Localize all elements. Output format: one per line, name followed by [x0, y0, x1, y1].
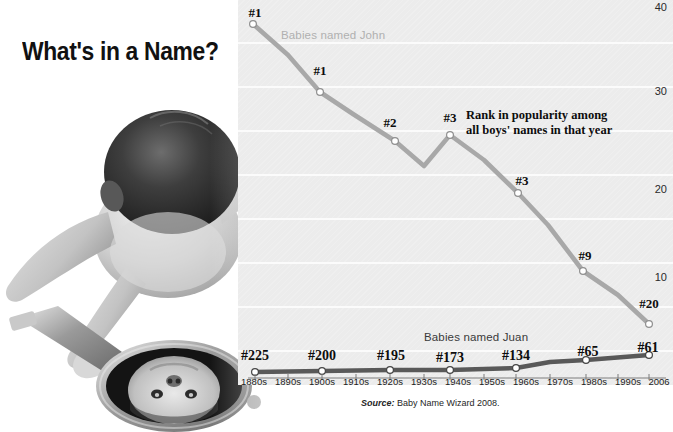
y-tick-label: 20	[643, 183, 667, 195]
data-label-juan: #134	[502, 348, 530, 364]
y-tick-label: 30	[643, 85, 667, 97]
chart-annotation: Rank in popularity among all boys' names…	[466, 108, 612, 138]
x-tick-label: 1900s	[309, 376, 335, 387]
x-axis-labels: 1880s 1890s 1900s 1910s 1920s 1930s 1940…	[238, 376, 673, 394]
source-label: Source:	[361, 398, 395, 408]
series-label-juan: Babies named Juan	[424, 331, 528, 343]
x-tick-label: 1940s	[445, 376, 471, 387]
x-tick-label: 1880s	[241, 376, 267, 387]
annotation-line-2: all boys' names in that year	[466, 123, 612, 138]
x-tick-label: 1980s	[581, 376, 607, 387]
data-label-juan: #61	[638, 340, 659, 356]
x-tick-label: 1950s	[479, 376, 505, 387]
x-tick-label: 1990s	[615, 376, 641, 387]
data-label-john: #9	[579, 248, 592, 264]
series-john	[250, 21, 653, 328]
data-label-john: #1	[314, 63, 327, 79]
y-tick-label: 40	[643, 1, 667, 13]
data-label-juan: #200	[308, 348, 336, 364]
data-label-juan: #225	[241, 348, 269, 364]
chart-panel	[238, 0, 673, 385]
source-text: Baby Name Wizard 2008.	[395, 398, 500, 408]
source-note: Source: Baby Name Wizard 2008.	[361, 398, 500, 408]
x-tick-label: 1960s	[513, 376, 539, 387]
x-tick-label: 1970s	[547, 376, 573, 387]
data-label-john: #2	[384, 115, 397, 131]
x-tick-label: 1920s	[377, 376, 403, 387]
data-label-john: #20	[639, 296, 659, 312]
annotation-line-1: Rank in popularity among	[466, 108, 612, 123]
infographic-root: 40 30 20 10 1880s 1890s 1900s 1910s 1920…	[0, 0, 673, 432]
x-tick-label: 1910s	[343, 376, 369, 387]
data-label-john: #1	[249, 5, 262, 21]
y-tick-label: 10	[643, 271, 667, 283]
x-tick-label: 2006	[648, 376, 669, 387]
data-label-john: #3	[444, 110, 457, 126]
series-label-john: Babies named John	[281, 29, 385, 41]
data-label-juan: #173	[436, 350, 464, 366]
data-label-juan: #195	[377, 348, 405, 364]
data-label-john: #3	[516, 173, 529, 189]
x-tick-label: 1930s	[411, 376, 437, 387]
page-title: What's in a Name?	[22, 36, 219, 67]
data-label-juan: #65	[578, 344, 599, 360]
series-john-markers	[250, 21, 653, 328]
x-tick-label: 1890s	[275, 376, 301, 387]
